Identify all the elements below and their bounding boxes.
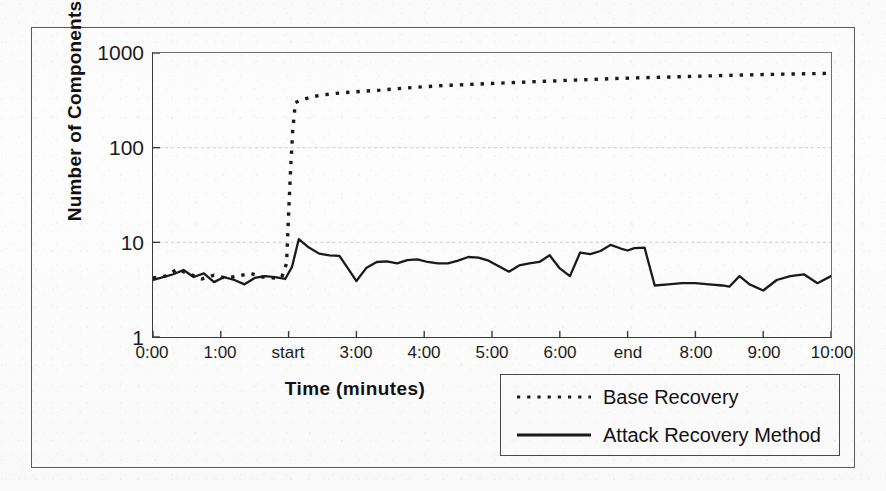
chart-canvas xyxy=(153,53,831,337)
legend-swatch-dotted-icon xyxy=(515,389,593,405)
x-tick-0-00: 0:00 xyxy=(135,343,168,363)
plot-area xyxy=(152,52,832,338)
figure-page: 1000 100 10 1 Number of Components 0:001… xyxy=(0,0,886,491)
series-line-base-recovery xyxy=(153,73,831,279)
legend-label-attack-recovery-method: Attack Recovery Method xyxy=(603,424,821,447)
legend-swatch-solid-icon xyxy=(515,427,593,443)
x-tick-3-00: 3:00 xyxy=(339,343,372,363)
gridlines xyxy=(153,148,831,243)
y-axis-title: Number of Components xyxy=(64,0,86,231)
x-tick-start: start xyxy=(271,343,304,363)
x-axis-tick-labels: 0:001:00start3:004:005:006:00end8:009:00… xyxy=(152,343,832,369)
x-tick-1-00: 1:00 xyxy=(203,343,236,363)
x-tick-6-00: 6:00 xyxy=(543,343,576,363)
x-tick-10-00: 10:00 xyxy=(811,343,854,363)
x-tick-8-00: 8:00 xyxy=(679,343,712,363)
series-line-attack-recovery xyxy=(153,239,831,290)
x-axis-tick-marks xyxy=(153,331,831,337)
y-axis-tick-labels: 1000 100 10 1 xyxy=(80,52,144,338)
x-tick-9-00: 9:00 xyxy=(747,343,780,363)
y-tick-10: 10 xyxy=(84,232,144,253)
x-tick-5-00: 5:00 xyxy=(475,343,508,363)
legend-label-base-recovery: Base Recovery xyxy=(603,386,739,409)
x-tick-end: end xyxy=(614,343,642,363)
legend-entry-attack-recovery-method: Attack Recovery Method xyxy=(501,415,839,455)
y-tick-1000: 1000 xyxy=(84,42,144,63)
legend-entry-base-recovery: Base Recovery xyxy=(501,377,839,417)
y-axis-tick-marks xyxy=(153,53,160,337)
y-tick-100: 100 xyxy=(84,137,144,158)
chart-legend: Base Recovery Attack Recovery Method xyxy=(500,374,840,456)
x-tick-4-00: 4:00 xyxy=(407,343,440,363)
x-axis-title: Time (minutes) xyxy=(205,378,505,400)
